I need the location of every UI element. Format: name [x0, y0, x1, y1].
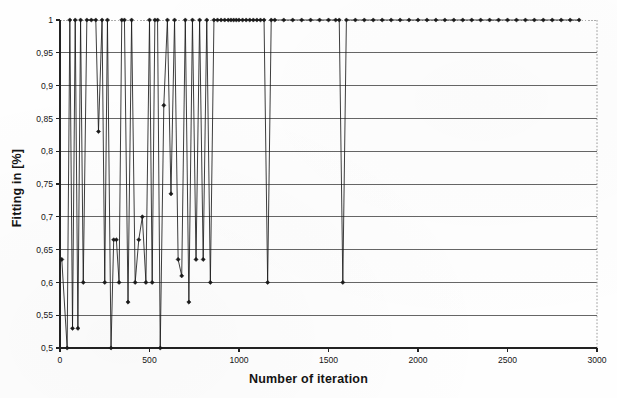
data-point-marker [85, 18, 89, 22]
x-tick-label: 500 [142, 355, 157, 365]
y-axis-ticks: 0,50,550,60,650,70,750,80,850,90,951 [36, 15, 60, 353]
data-point-marker [187, 300, 191, 304]
grid-lines [60, 20, 597, 348]
data-point-marker [273, 18, 277, 22]
data-point-marker [103, 280, 107, 284]
data-point-marker [505, 18, 509, 22]
y-tick-label: 0,7 [41, 212, 53, 222]
data-point-marker [201, 257, 205, 261]
data-point-marker [96, 129, 100, 133]
data-point-marker [541, 18, 545, 22]
data-point-marker [443, 18, 447, 22]
data-point-marker [172, 18, 176, 22]
x-tick-label: 2500 [498, 355, 517, 365]
data-point-marker [309, 18, 313, 22]
data-point-marker [180, 274, 184, 278]
data-point-marker [147, 18, 151, 22]
data-point-marker [337, 18, 341, 22]
y-tick-label: 0,5 [41, 343, 53, 353]
data-point-marker [568, 18, 572, 22]
data-point-marker [317, 18, 321, 22]
y-tick-label: 0,6 [41, 278, 53, 288]
data-point-marker [122, 18, 126, 22]
data-point-marker [479, 18, 483, 22]
data-point-marker [514, 18, 518, 22]
data-point-marker [488, 18, 492, 22]
data-point-marker [461, 18, 465, 22]
data-point-marker [165, 18, 169, 22]
data-point-marker [266, 280, 270, 284]
data-point-marker [532, 18, 536, 22]
data-point-marker [68, 18, 72, 22]
y-tick-label: 1 [48, 15, 53, 25]
data-point-marker [291, 18, 295, 22]
data-point-marker [353, 18, 357, 22]
data-point-marker [559, 18, 563, 22]
data-point-marker [81, 280, 85, 284]
data-point-marker [137, 238, 141, 242]
data-point-marker [183, 18, 187, 22]
data-point-marker [194, 257, 198, 261]
data-point-marker [262, 18, 266, 22]
data-point-marker [73, 18, 77, 22]
data-point-marker [470, 18, 474, 22]
data-point-marker [109, 346, 113, 350]
data-point-marker [117, 280, 121, 284]
data-point-marker [76, 326, 80, 330]
data-point-marker [326, 18, 330, 22]
y-tick-label: 0,65 [36, 245, 53, 255]
x-tick-label: 1500 [319, 355, 338, 365]
data-point-marker [398, 18, 402, 22]
data-point-marker [126, 300, 130, 304]
fitting-convergence-chart: 0,50,550,60,650,70,750,80,850,90,951 050… [0, 0, 617, 398]
data-point-marker [105, 18, 109, 22]
data-point-marker [158, 346, 162, 350]
x-tick-label: 2000 [408, 355, 427, 365]
y-tick-label: 0,85 [36, 114, 53, 124]
data-point-marker [282, 18, 286, 22]
y-tick-label: 0,8 [41, 146, 53, 156]
y-tick-label: 0,9 [41, 81, 53, 91]
data-point-marker [198, 18, 202, 22]
data-point-marker [114, 238, 118, 242]
data-point-marker [140, 215, 144, 219]
x-tick-label: 3000 [587, 355, 606, 365]
data-point-marker [150, 280, 154, 284]
data-point-marker [155, 18, 159, 22]
data-point-marker [190, 18, 194, 22]
data-point-marker [407, 18, 411, 22]
data-point-marker [371, 18, 375, 22]
y-tick-label: 0,55 [36, 310, 53, 320]
data-point-marker [577, 18, 581, 22]
y-tick-label: 0,75 [36, 179, 53, 189]
data-point-marker [416, 18, 420, 22]
x-axis-ticks: 050010001500200025003000 [58, 348, 607, 365]
x-tick-label: 1000 [229, 355, 248, 365]
data-point-marker [362, 18, 366, 22]
data-point-marker [380, 18, 384, 22]
data-point-marker [205, 18, 209, 22]
data-point-marker [78, 18, 82, 22]
data-point-marker [425, 18, 429, 22]
chart-figure: 0,50,550,60,650,70,750,80,850,90,951 050… [0, 0, 617, 398]
data-point-marker [550, 18, 554, 22]
data-point-marker [300, 18, 304, 22]
data-point-marker [389, 18, 393, 22]
data-point-marker [176, 257, 180, 261]
data-point-marker [100, 18, 104, 22]
data-point-marker [162, 103, 166, 107]
data-point-marker [344, 18, 348, 22]
data-point-marker [434, 18, 438, 22]
data-point-marker [523, 18, 527, 22]
data-point-marker [452, 18, 456, 22]
data-point-marker [130, 18, 134, 22]
data-point-marker [144, 280, 148, 284]
data-point-marker [169, 192, 173, 196]
data-point-marker [89, 18, 93, 22]
data-point-marker [65, 346, 69, 350]
data-point-marker [208, 280, 212, 284]
data-point-marker [70, 326, 74, 330]
data-point-marker [94, 18, 98, 22]
x-tick-label: 0 [58, 355, 63, 365]
y-tick-label: 0,95 [36, 48, 53, 58]
